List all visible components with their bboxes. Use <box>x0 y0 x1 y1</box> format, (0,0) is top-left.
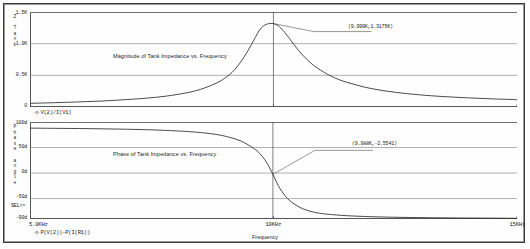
yaxis-title-char: k <box>11 42 19 48</box>
x-axis-tick-labels: 5.0KHz10KHz15KHz <box>30 221 517 229</box>
phase-plot-panel[interactable]: 100d 50d 0d -50d -90d <box>30 122 517 219</box>
annotation-leader-line <box>273 150 315 174</box>
yaxis-title-char: e <box>11 180 19 186</box>
phase-cursor-annotation: (9.988K,-2.5541) <box>352 141 397 147</box>
x-tick-label: 5.0KHz <box>29 221 48 228</box>
magnitude-chart-title: Magnitude of Tank Impedance vs. Frequenc… <box>113 53 227 59</box>
phase-yaxis-title: Phase angle <box>11 124 19 186</box>
phase-ytick-2: 0d <box>21 169 27 175</box>
annotation-leader-line <box>273 24 313 32</box>
magnitude-trace-canvas <box>30 12 517 107</box>
magnitude-plot-panel[interactable]: 1.5K 1.0K 0.5K 0 <box>30 12 517 107</box>
x-tick-label: 10KHz <box>266 221 282 228</box>
magnitude-trace-legend[interactable]: ◇V(2)/I(V1) <box>35 108 71 116</box>
phase-chart-title: Phase of Tank Impedance vs. Frequency <box>113 151 216 157</box>
phase-ytick-3: -50d <box>16 194 27 200</box>
magnitude-legend-label: V(2)/I(V1) <box>40 109 71 116</box>
x-axis-title: Frequency <box>0 234 530 240</box>
magnitude-ytick-3: 0 <box>24 103 27 109</box>
magnitude-yaxis-title: Z Tank <box>11 14 19 48</box>
probe-plot-screenshot: 1.5K 1.0K 0.5K 0 Z Tank Magnitude of Tan… <box>0 0 530 249</box>
magnitude-ytick-2: 0.5K <box>16 72 27 78</box>
magnitude-legend-marker-icon: ◇ <box>35 108 38 116</box>
x-tick-label: 15KHz <box>509 221 525 228</box>
phase-trace-canvas <box>30 122 517 219</box>
phase-ytick-1: 50d <box>19 144 27 150</box>
magnitude-cursor-annotation: (9.999K,1.3175K) <box>348 24 393 30</box>
selected-panel-marker[interactable]: SEL>> <box>11 203 25 209</box>
phase-ytick-4: -90d <box>16 215 27 221</box>
